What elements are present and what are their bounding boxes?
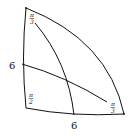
angle-label-bottom-right: π 3 [110, 100, 116, 114]
svg-text:π: π [29, 11, 35, 18]
vertex-top [25, 7, 27, 9]
svg-text:3: 3 [111, 107, 115, 114]
svg-text:2: 2 [28, 98, 33, 105]
svg-text:3: 3 [30, 18, 34, 25]
side-label-left: 6 [9, 60, 15, 71]
edge-hypotenuse [26, 8, 124, 114]
angle-label-top: π 3 [29, 11, 35, 25]
vertex-bottom-right [123, 113, 125, 115]
edge-left [24, 8, 27, 108]
interior-arc-from-top [35, 23, 74, 115]
interior-arc-from-left [22, 64, 107, 102]
svg-text:π: π [110, 100, 116, 107]
triangle-diagram: π 3 π 2 π 3 6 6 [0, 0, 132, 136]
side-label-bottom: 6 [71, 120, 77, 131]
edge-bottom [26, 108, 124, 115]
svg-text:π: π [28, 91, 34, 98]
angle-label-bottom-left: π 2 [28, 91, 34, 105]
